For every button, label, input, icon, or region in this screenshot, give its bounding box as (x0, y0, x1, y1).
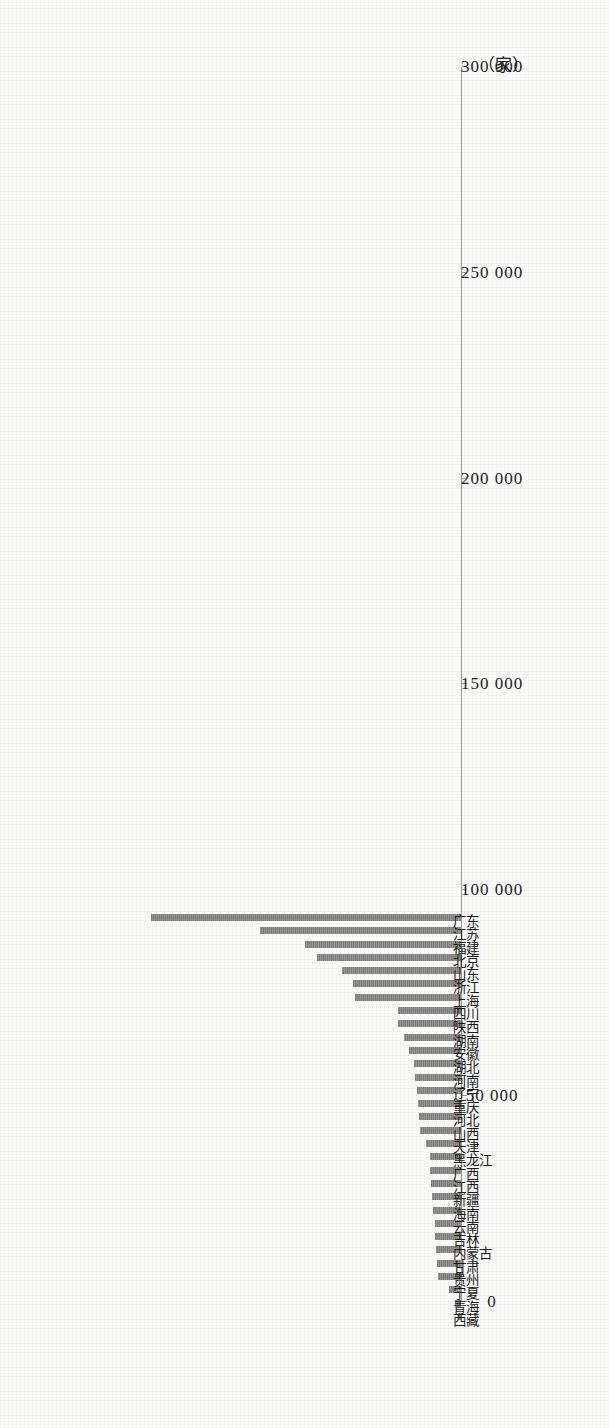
tick-label: 200 000 (447, 469, 537, 489)
category-label: 四川 (452, 1008, 478, 1022)
bar (342, 967, 461, 974)
category-label: 重庆 (452, 1101, 478, 1115)
category-label: 黑龙江 (452, 1154, 491, 1168)
category-label: 新疆 (452, 1194, 478, 1208)
category-label: 安徽 (452, 1048, 478, 1062)
category-label: 内蒙古 (452, 1248, 491, 1262)
category-label: 江西 (452, 1181, 478, 1195)
bar (353, 981, 461, 988)
bar (355, 994, 461, 1001)
category-label: 湖南 (452, 1035, 478, 1049)
category-label: 山西 (452, 1128, 478, 1142)
category-label: 广东 (452, 915, 478, 929)
category-label: 河南 (452, 1075, 478, 1089)
bar (304, 941, 460, 948)
plot-area: 050 000100 000150 000200 000250 000300 0… (70, 64, 540, 1364)
tick-label: 250 000 (447, 263, 537, 283)
category-label: 青海 (452, 1301, 478, 1315)
category-label: 广西 (452, 1168, 478, 1182)
bar (316, 954, 460, 961)
bar (397, 1007, 460, 1014)
tick-label: 100 000 (447, 880, 537, 900)
bar-series (131, 908, 461, 1330)
bar (150, 914, 460, 921)
category-label: 湖北 (452, 1061, 478, 1075)
category-label: 江苏 (452, 928, 478, 942)
category-label: 山东 (452, 968, 478, 982)
category-label: 吉林 (452, 1234, 478, 1248)
category-label: 贵州 (452, 1274, 478, 1288)
category-label: 陕西 (452, 1021, 478, 1035)
category-label: 甘肃 (452, 1261, 478, 1275)
category-label: 宁夏 (452, 1287, 478, 1301)
rotated-chart-container: 050 000100 000150 000200 000250 000300 0… (70, 64, 540, 1364)
category-label: 辽宁 (452, 1088, 478, 1102)
category-label: 福建 (452, 942, 478, 956)
category-label: 海南 (452, 1208, 478, 1222)
category-label: 浙江 (452, 982, 478, 996)
category-label: 天津 (452, 1141, 478, 1155)
tick-label: 150 000 (447, 675, 537, 695)
category-label: 北京 (452, 955, 478, 969)
category-label: 上海 (452, 995, 478, 1009)
bar (397, 1020, 460, 1027)
unit-label: （家） (478, 51, 529, 76)
category-label: 云南 (452, 1221, 478, 1235)
bar (259, 927, 460, 934)
category-label: 河北 (452, 1115, 478, 1129)
bar (403, 1034, 460, 1041)
category-label: 西藏 (452, 1314, 478, 1328)
